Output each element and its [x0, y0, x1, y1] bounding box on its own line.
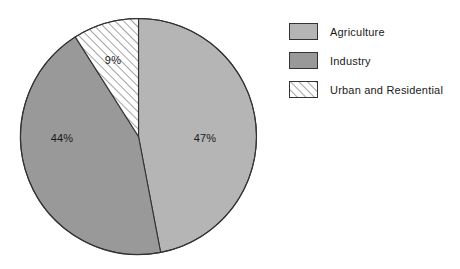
legend-swatch-agriculture: [289, 23, 318, 40]
pie-chart: 47% 44% 9% Agriculture Industry Urban an…: [0, 0, 460, 269]
legend-item-urban-and-residential[interactable]: Urban and Residential: [289, 81, 459, 98]
pie-slice-agriculture[interactable]: [139, 19, 257, 253]
legend-item-agriculture[interactable]: Agriculture: [289, 23, 459, 40]
legend-swatch-industry: [289, 52, 318, 69]
hatch-pattern-icon: [290, 82, 317, 97]
legend-label-industry: Industry: [330, 55, 371, 67]
legend-swatch-urban-and-residential: [289, 81, 318, 98]
legend-label-agriculture: Agriculture: [330, 26, 385, 38]
pie-slices: [20, 19, 256, 255]
legend-item-industry[interactable]: Industry: [289, 52, 459, 69]
chart-legend: Agriculture Industry Urban and Residenti…: [289, 23, 459, 110]
legend-label-urban-and-residential: Urban and Residential: [330, 84, 443, 96]
